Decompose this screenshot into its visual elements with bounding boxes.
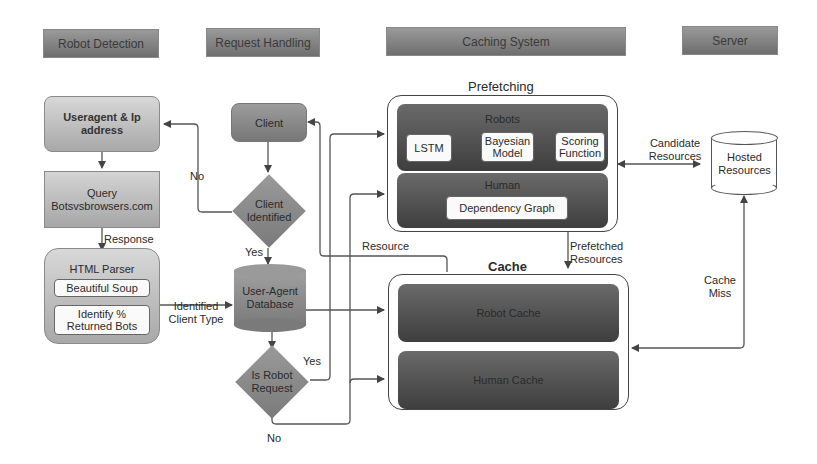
prefetched-resources-label: Prefetched Resources	[570, 240, 628, 266]
robot-cache-panel: Robot Cache	[398, 284, 619, 342]
prefetching-title: Prefetching	[468, 79, 534, 94]
useragent-ip-box: Useragent & Ip address	[44, 96, 160, 152]
html-parser-box: HTML Parser Beautiful Soup Identify % Re…	[44, 248, 160, 344]
header-request-handling: Request Handling	[206, 28, 320, 57]
html-parser-title: HTML Parser	[45, 263, 159, 276]
beautiful-soup-box: Beautiful Soup	[54, 279, 150, 297]
robot-yes-label: Yes	[303, 355, 321, 368]
query-label: Query Botsvsbrowsers.com	[50, 187, 154, 213]
client-identified-label: Client Identified	[244, 198, 294, 224]
is-robot-request-decision: Is Robot Request	[235, 345, 309, 419]
hosted-resources-db: Hosted Resources	[711, 131, 779, 195]
client-identified-decision: Client Identified	[232, 174, 306, 248]
dependency-graph-box: Dependency Graph	[446, 196, 568, 220]
client-box: Client	[231, 103, 307, 142]
cache-container: Robot Cache Human Cache	[388, 274, 629, 410]
cache-miss-label: Cache Miss	[702, 274, 738, 300]
human-cache-panel: Human Cache	[398, 351, 619, 409]
is-robot-request-label: Is Robot Request	[247, 369, 297, 395]
candidate-resources-label: Candidate Resources	[644, 137, 706, 163]
lstm-box: LSTM	[406, 134, 452, 162]
robots-title: Robots	[397, 113, 608, 126]
prefetching-container: Robots LSTM Bayesian Model Scoring Funct…	[387, 95, 618, 232]
resource-label: Resource	[362, 240, 409, 253]
no-label: No	[190, 170, 204, 183]
robots-panel: Robots LSTM Bayesian Model Scoring Funct…	[397, 104, 608, 171]
identified-client-type-label: Identified Client Type	[168, 300, 224, 326]
user-agent-database: User-Agent Database	[234, 264, 306, 332]
header-caching-system: Caching System	[386, 27, 626, 56]
human-cache-label: Human Cache	[473, 374, 543, 386]
useragent-ip-label: Useragent & Ip address	[62, 111, 142, 137]
bayesian-model-box: Bayesian Model	[481, 132, 534, 162]
identify-bots-box: Identify % Returned Bots	[54, 305, 150, 335]
header-robot-detection: Robot Detection	[43, 29, 159, 58]
robot-cache-label: Robot Cache	[476, 307, 540, 319]
user-agent-db-label: User-Agent Database	[240, 285, 300, 311]
human-panel: Human Dependency Graph	[397, 173, 608, 228]
scoring-function-box: Scoring Function	[555, 132, 605, 162]
yes-label: Yes	[245, 246, 263, 259]
hosted-resources-label: Hosted Resources	[715, 151, 775, 177]
robot-no-label: No	[267, 432, 281, 445]
cache-title: Cache	[488, 259, 527, 274]
response-label: Response	[104, 233, 154, 246]
human-title: Human	[397, 179, 608, 192]
header-server: Server	[682, 26, 778, 55]
query-box: Query Botsvsbrowsers.com	[44, 171, 160, 228]
